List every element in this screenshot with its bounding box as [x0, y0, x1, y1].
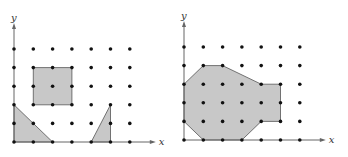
lattice-point — [240, 45, 244, 49]
lattice-point — [128, 66, 132, 70]
lattice-point — [182, 82, 186, 86]
lattice-point — [109, 66, 113, 70]
x-arrow-icon — [320, 138, 326, 142]
lattice-point — [32, 103, 36, 107]
lattice-point — [70, 47, 74, 51]
lattice-point — [202, 45, 206, 49]
x-axis-label: x — [159, 136, 165, 147]
lattice-point — [202, 82, 206, 86]
lattice-point — [240, 138, 244, 142]
y-arrow-icon — [182, 21, 186, 27]
lattice-point — [12, 140, 16, 144]
lattice-point — [298, 120, 302, 124]
lattice-point — [51, 103, 55, 107]
lattice-point — [298, 101, 302, 105]
lattice-point — [109, 140, 113, 144]
lattice-point — [298, 64, 302, 68]
lattice-point — [32, 84, 36, 88]
lattice-point — [240, 82, 244, 86]
lattice-point — [109, 122, 113, 126]
lattice-point — [221, 64, 225, 68]
figure-left: xy — [10, 12, 165, 147]
lattice-point — [259, 64, 263, 68]
lattice-point — [32, 66, 36, 70]
lattice-point — [182, 101, 186, 105]
lattice-point — [12, 66, 16, 70]
lattice-point — [128, 47, 132, 51]
lattice-point — [259, 82, 263, 86]
lattice-point — [70, 103, 74, 107]
lattice-point — [221, 138, 225, 142]
lattice-point — [221, 82, 225, 86]
lattice-point — [89, 122, 93, 126]
lattice-point — [51, 140, 55, 144]
lattice-diagrams: xyxy — [0, 0, 348, 157]
lattice-point — [202, 64, 206, 68]
lattice-point — [109, 47, 113, 51]
lattice-point — [240, 101, 244, 105]
lattice-point — [32, 47, 36, 51]
lattice-point — [279, 45, 283, 49]
lattice-point — [70, 84, 74, 88]
lattice-point — [240, 64, 244, 68]
lattice-point — [70, 122, 74, 126]
shape-octagon-region — [184, 66, 281, 140]
lattice-point — [128, 84, 132, 88]
lattice-point — [221, 120, 225, 124]
lattice-point — [128, 140, 132, 144]
lattice-point — [202, 101, 206, 105]
lattice-point — [89, 103, 93, 107]
lattice-point — [240, 120, 244, 124]
lattice-point — [89, 66, 93, 70]
y-axis-label: y — [180, 10, 187, 21]
lattice-point — [128, 122, 132, 126]
lattice-point — [298, 138, 302, 142]
lattice-point — [51, 122, 55, 126]
lattice-point — [51, 47, 55, 51]
lattice-point — [182, 138, 186, 142]
figure-right: xy — [180, 10, 335, 145]
lattice-point — [12, 47, 16, 51]
lattice-point — [279, 101, 283, 105]
lattice-point — [51, 66, 55, 70]
shape-right-triangle — [91, 105, 110, 142]
y-axis-label: y — [10, 12, 17, 23]
lattice-point — [32, 122, 36, 126]
lattice-point — [259, 138, 263, 142]
lattice-point — [221, 45, 225, 49]
lattice-point — [298, 45, 302, 49]
lattice-point — [202, 138, 206, 142]
lattice-point — [182, 120, 186, 124]
lattice-point — [70, 140, 74, 144]
lattice-point — [12, 103, 16, 107]
lattice-point — [259, 120, 263, 124]
lattice-point — [202, 120, 206, 124]
lattice-point — [182, 45, 186, 49]
x-axis-label: x — [329, 134, 335, 145]
lattice-point — [259, 101, 263, 105]
lattice-point — [279, 138, 283, 142]
lattice-point — [182, 64, 186, 68]
lattice-point — [51, 84, 55, 88]
lattice-point — [89, 84, 93, 88]
lattice-point — [298, 82, 302, 86]
y-arrow-icon — [12, 23, 16, 29]
lattice-point — [279, 82, 283, 86]
x-arrow-icon — [150, 140, 156, 144]
lattice-point — [12, 84, 16, 88]
lattice-point — [109, 84, 113, 88]
lattice-point — [89, 47, 93, 51]
lattice-point — [89, 140, 93, 144]
lattice-point — [279, 120, 283, 124]
lattice-point — [279, 64, 283, 68]
lattice-point — [109, 103, 113, 107]
lattice-point — [259, 45, 263, 49]
lattice-point — [70, 66, 74, 70]
lattice-point — [32, 140, 36, 144]
lattice-point — [12, 122, 16, 126]
lattice-point — [221, 101, 225, 105]
lattice-point — [128, 103, 132, 107]
